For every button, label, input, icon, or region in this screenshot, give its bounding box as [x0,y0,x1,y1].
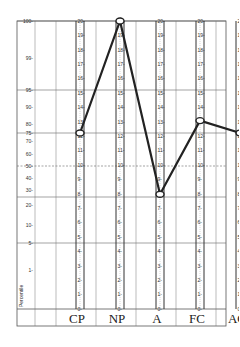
raw-score-tick: 7- [198,205,203,211]
raw-score-tick: 15- [118,90,126,96]
raw-score-tick: 20- [238,18,240,24]
raw-score-tick: 3- [78,263,83,269]
raw-score-tick: 16- [158,75,166,81]
raw-score-tick: 7- [158,205,163,211]
raw-score-tick: 5- [158,234,163,240]
raw-score-tick: 15- [158,90,166,96]
raw-score-tick: 18- [78,47,86,53]
raw-score-tick: 10- [118,162,126,168]
percentile-tick: 30- [26,187,34,193]
raw-score-tick: 9- [158,176,163,182]
column-labels: CPNPAFCAC [69,311,239,326]
raw-score-tick: 20- [158,18,166,24]
raw-score-tick: 13- [238,119,240,125]
raw-score-tick: 5- [118,234,123,240]
raw-score-tick: 1- [158,291,163,297]
raw-score-tick: 9- [238,176,240,182]
raw-score-tick: 19- [238,32,240,38]
raw-score-tick: 13- [158,119,166,125]
raw-score-tick: 10- [238,162,240,168]
raw-score-tick: 15- [198,90,206,96]
raw-score-tick: 4- [238,248,240,254]
raw-score-tick: 6- [158,219,163,225]
data-point [156,191,164,197]
percentile-tick: 100- [23,18,33,24]
raw-score-tick: 6- [238,219,240,225]
raw-score-tick: 8- [198,191,203,197]
raw-score-tick: 11- [78,147,85,153]
raw-score-tick: 17- [78,61,86,67]
raw-score-tick: 19- [198,32,206,38]
percentile-tick: 80- [26,121,34,127]
raw-score-tick: 10- [158,162,166,168]
percentile-side-label: Percentile [18,285,24,307]
raw-score-tick: 5- [198,234,203,240]
raw-score-tick: 17- [158,61,166,67]
data-point [236,130,239,136]
raw-score-tick: 11- [158,147,165,153]
raw-score-tick: 7- [78,205,83,211]
raw-score-tick: 3- [158,263,163,269]
raw-score-tick: 1- [78,291,83,297]
raw-score-tick: 7- [238,205,240,211]
raw-score-tick: 9- [118,176,123,182]
raw-score-tick: 11- [198,147,205,153]
percentile-tick: 70- [26,138,34,144]
raw-score-tick: 4- [198,248,203,254]
raw-score-tick: 10- [198,162,206,168]
raw-score-tick: 19- [78,32,86,38]
raw-score-tick: 14- [158,104,166,110]
percentile-tick: 99- [26,55,34,61]
percentile-tick: 10- [26,222,34,228]
raw-score-tick: 9- [78,176,83,182]
percentile-tick: 1- [29,267,34,273]
raw-score-tick: 6- [118,219,123,225]
raw-score-tick: 11- [238,147,240,153]
raw-score-tick: 16- [198,75,206,81]
raw-score-tick: 16- [78,75,86,81]
column-label-cp: CP [69,311,85,326]
percentile-tick: 75- [26,130,34,136]
raw-score-tick: 19- [158,32,166,38]
percentile-tick: 40- [26,175,34,181]
raw-score-tick: 8- [118,191,123,197]
raw-score-tick: 17- [198,61,206,67]
raw-score-tick: 6- [78,219,83,225]
percentile-tick: 50- [26,163,34,169]
raw-score-tick: 14- [78,104,86,110]
raw-score-tick: 4- [78,248,83,254]
raw-score-tick: 18- [118,47,126,53]
raw-score-tick: 5- [238,234,240,240]
raw-score-tick: 2- [158,277,163,283]
raw-score-tick: 16- [238,75,240,81]
column-label-ac: AC [228,311,239,326]
percentile-tick: 5- [29,240,34,246]
percentile-tick: 95- [26,87,34,93]
raw-score-tick: 2- [198,277,203,283]
column-label-a: A [152,311,162,326]
raw-score-tick: 1- [198,291,203,297]
raw-score-tick: 2- [238,277,240,283]
raw-score-tick: 15- [238,90,240,96]
score-columns: 20-19-18-17-16-15-14-13-12-11-10-9-8-7-6… [56,18,239,326]
raw-score-tick: 2- [118,277,123,283]
raw-score-tick: 6- [198,219,203,225]
raw-score-tick: 3- [198,263,203,269]
raw-score-tick: 12- [158,133,166,139]
raw-score-tick: 3- [238,263,240,269]
raw-score-tick: 1- [118,291,123,297]
raw-score-tick: 4- [158,248,163,254]
raw-score-tick: 20- [198,18,206,24]
percentile-tick: 90- [26,104,34,110]
raw-score-tick: 12- [198,133,206,139]
raw-score-tick: 2- [78,277,83,283]
data-point [196,118,204,124]
raw-score-tick: 5- [78,234,83,240]
raw-score-tick: 14- [118,104,126,110]
raw-score-tick: 18- [198,47,206,53]
percentile-tick: 20- [26,202,34,208]
raw-score-tick: 14- [238,104,240,110]
raw-score-tick: 11- [118,147,125,153]
raw-score-tick: 12- [118,133,126,139]
raw-score-tick: 18- [158,47,166,53]
